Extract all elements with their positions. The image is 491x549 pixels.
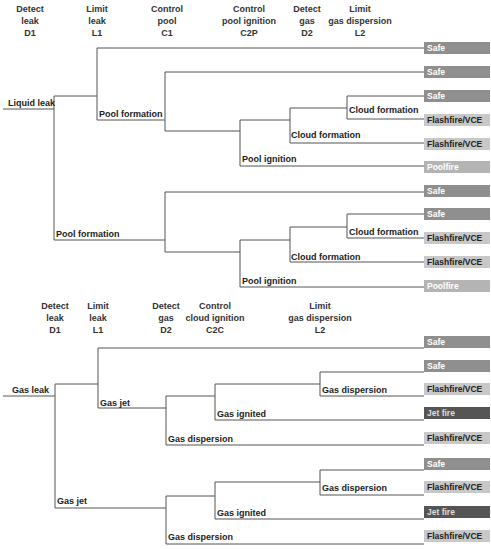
outcome-flash: Flashfire/VCE bbox=[424, 232, 490, 244]
column-header: ControlpoolC1 bbox=[127, 3, 207, 39]
branch-label: Cloud formation bbox=[349, 227, 419, 238]
header-line1: Limit bbox=[57, 3, 137, 15]
branch-label: Gas jet bbox=[100, 398, 130, 409]
branch-label: Gas dispersion bbox=[168, 532, 233, 543]
header-code: L1 bbox=[57, 27, 137, 39]
header-line1: Limit bbox=[280, 300, 360, 312]
outcome-safe: Safe bbox=[424, 90, 490, 102]
header-line2: pool bbox=[127, 15, 207, 27]
header-line1: Limit bbox=[320, 3, 400, 15]
branch-label: Cloud formation bbox=[291, 252, 361, 263]
column-header: Controlcloud ignitionC2C bbox=[175, 300, 255, 336]
outcome-safe: Safe bbox=[424, 42, 490, 54]
outcome-safe: Safe bbox=[424, 185, 490, 197]
outcome-pool: Poolfire bbox=[424, 161, 490, 173]
header-line1: Control bbox=[175, 300, 255, 312]
column-header: LimitleakL1 bbox=[57, 3, 137, 39]
branch-label: Pool formation bbox=[99, 109, 163, 120]
outcome-safe: Safe bbox=[424, 360, 490, 372]
outcome-pool: Poolfire bbox=[424, 280, 490, 292]
branch-label: Gas dispersion bbox=[322, 483, 387, 494]
header-line2: cloud ignition bbox=[175, 312, 255, 324]
initiating-event-liquid-leak: Liquid leak bbox=[8, 98, 55, 109]
event-tree-lines bbox=[0, 0, 491, 549]
branch-label: Cloud formation bbox=[349, 105, 419, 116]
branch-label: Pool formation bbox=[56, 229, 120, 240]
outcome-jet: Jet fire bbox=[424, 407, 490, 419]
outcome-flash: Flashfire/VCE bbox=[424, 383, 490, 395]
column-header: Limitgas dispersionL2 bbox=[280, 300, 360, 336]
header-line2: gas dispersion bbox=[280, 312, 360, 324]
initiating-event-gas-leak: Gas leak bbox=[12, 385, 49, 396]
branch-label: Gas ignited bbox=[217, 508, 266, 519]
outcome-flash: Flashfire/VCE bbox=[424, 530, 490, 542]
header-line1: Control bbox=[127, 3, 207, 15]
outcome-safe: Safe bbox=[424, 208, 490, 220]
header-code: L2 bbox=[320, 27, 400, 39]
branch-label: Gas ignited bbox=[217, 409, 266, 420]
outcome-jet: Jet fire bbox=[424, 506, 490, 518]
outcome-flash: Flashfire/VCE bbox=[424, 481, 490, 493]
outcome-safe: Safe bbox=[424, 458, 490, 470]
header-code: C1 bbox=[127, 27, 207, 39]
branch-label: Gas jet bbox=[57, 496, 87, 507]
outcome-flash: Flashfire/VCE bbox=[424, 432, 490, 444]
branch-label: Pool ignition bbox=[242, 154, 297, 165]
branch-label: Pool ignition bbox=[242, 276, 297, 287]
outcome-safe: Safe bbox=[424, 66, 490, 78]
outcome-flash: Flashfire/VCE bbox=[424, 114, 490, 126]
branch-label: Gas dispersion bbox=[168, 434, 233, 445]
header-line2: leak bbox=[57, 15, 137, 27]
branch-label: Gas dispersion bbox=[322, 385, 387, 396]
header-line2: gas dispersion bbox=[320, 15, 400, 27]
outcome-flash: Flashfire/VCE bbox=[424, 256, 490, 268]
outcome-flash: Flashfire/VCE bbox=[424, 138, 490, 150]
branch-label: Cloud formation bbox=[291, 130, 361, 141]
outcome-safe: Safe bbox=[424, 336, 490, 348]
header-code: L2 bbox=[280, 324, 360, 336]
column-header: Limitgas dispersionL2 bbox=[320, 3, 400, 39]
header-code: C2C bbox=[175, 324, 255, 336]
